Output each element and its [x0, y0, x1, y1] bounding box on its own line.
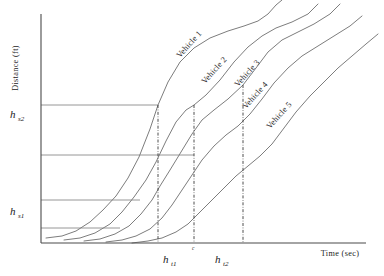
trajectory-vehicle-1: [46, 0, 282, 238]
x-axis-title: Time (sec): [321, 249, 359, 258]
vertical-reference-lines: [158, 85, 243, 243]
x-tick-label-ht2: h t2: [215, 253, 229, 268]
y-tick-label-hs2: h s2: [10, 108, 25, 123]
time-space-diagram-figure: Distance (ft) Time (sec) h s2 h s1 h t1 …: [0, 0, 384, 276]
label-vehicle-3: Vehicle 3: [233, 58, 262, 89]
vehicle-curve-labels: Vehicle 1 Vehicle 2 Vehicle 3 Vehicle 4 …: [175, 29, 294, 131]
origin-mark-c: c: [192, 245, 195, 251]
x-tick-ht1-base: h: [163, 253, 169, 265]
y-axis-title: Distance (ft): [11, 45, 20, 91]
label-vehicle-5: Vehicle 5: [265, 100, 294, 131]
x-tick-ht2-sub: t2: [223, 260, 229, 268]
trajectory-plot-svg: Distance (ft) Time (sec) h s2 h s1 h t1 …: [0, 0, 384, 276]
horizontal-reference-lines: [41, 105, 194, 228]
trajectory-vehicle-4: [106, 16, 362, 242]
y-tick-hs2-sub: s2: [18, 115, 25, 123]
y-tick-hs1-base: h: [10, 205, 16, 217]
label-vehicle-2: Vehicle 2: [200, 55, 229, 86]
x-tick-ht1-sub: t1: [171, 260, 176, 268]
vehicle-trajectories: [46, 0, 378, 243]
x-tick-ht2-base: h: [215, 253, 221, 265]
y-tick-hs1-sub: s1: [18, 212, 24, 220]
label-vehicle-4: Vehicle 4: [241, 80, 270, 111]
y-tick-hs2-base: h: [10, 108, 16, 120]
x-tick-label-ht1: h t1: [163, 253, 176, 268]
trajectory-vehicle-3: [84, 4, 340, 241]
y-tick-label-hs1: h s1: [10, 205, 24, 220]
